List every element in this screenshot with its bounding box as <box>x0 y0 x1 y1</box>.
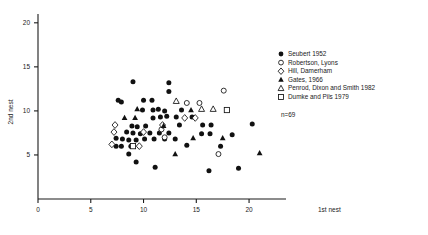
marker-filled-circle <box>173 137 178 142</box>
marker-filled-circle <box>208 131 213 136</box>
x-tick-label: 10 <box>140 206 148 213</box>
marker-filled-circle <box>218 144 223 149</box>
y-tick-label: 5 <box>26 151 30 158</box>
marker-filled-triangle <box>134 106 140 111</box>
y-axis-label: 2nd nest <box>7 99 14 124</box>
legend-item-label: Gates, 1966 <box>288 76 323 83</box>
marker-filled-triangle <box>172 151 178 156</box>
chart-container: 05101520 5101520 1st nest 2nd nest Seube… <box>0 0 428 235</box>
marker-open-triangle <box>173 98 179 104</box>
marker-open-diamond <box>136 143 142 150</box>
marker-filled-circle <box>152 137 157 142</box>
marker-filled-circle <box>142 137 147 142</box>
marker-filled-circle <box>147 130 152 135</box>
legend-item-0[interactable]: Seubert 1952 <box>279 50 327 57</box>
marker-filled-triangle <box>132 115 138 120</box>
legend-item-label: Dumke and Pils 1979 <box>288 93 349 100</box>
marker-filled-circle <box>153 165 158 170</box>
marker-filled-circle <box>166 89 171 94</box>
marker-filled-circle <box>230 132 235 137</box>
marker-open-circle <box>197 100 202 105</box>
marker-filled-circle <box>236 166 241 171</box>
marker-open-triangle <box>199 106 205 112</box>
legend-item-1[interactable]: Robertson, Lyons <box>279 59 338 67</box>
marker-filled-triangle <box>122 115 128 120</box>
series-0 <box>114 79 255 173</box>
marker-filled-circle <box>206 168 211 173</box>
marker-open-circle <box>184 100 189 105</box>
legend-item-label: Penrod, Dixon and Smith 1982 <box>288 84 375 91</box>
marker-open-circle <box>216 152 221 157</box>
marker-filled-circle <box>151 115 156 120</box>
marker-filled-circle <box>119 144 124 149</box>
marker-filled-triangle <box>190 135 196 140</box>
series-1 <box>159 88 226 156</box>
legend-item-label: Robertson, Lyons <box>288 59 338 67</box>
marker-filled-circle <box>209 123 214 128</box>
marker-filled-circle <box>166 130 171 135</box>
marker-filled-triangle <box>257 150 263 155</box>
marker-filled-circle <box>134 137 139 142</box>
marker-filled-circle <box>134 160 139 165</box>
sample-size-note: n=69 <box>281 111 296 118</box>
marker-filled-triangle <box>220 135 226 140</box>
legend-item-4[interactable]: Penrod, Dixon and Smith 1982 <box>278 84 375 91</box>
marker-open-diamond <box>111 129 117 136</box>
marker-open-square <box>224 107 229 112</box>
legend-item-label: Hill, Damerham <box>288 67 332 74</box>
legend: Seubert 1952Robertson, LyonsHill, Damerh… <box>278 50 375 118</box>
marker-filled-circle <box>158 115 163 120</box>
marker-filled-circle <box>140 108 145 113</box>
marker-open-triangle <box>210 106 216 112</box>
marker-filled-circle <box>124 130 129 135</box>
marker-open-square <box>130 144 135 149</box>
y-tick-label: 10 <box>23 107 31 114</box>
x-tick-label: 20 <box>245 206 253 213</box>
marker-filled-circle <box>166 80 171 85</box>
marker-open-circle <box>279 60 284 65</box>
marker-open-triangle <box>278 85 284 90</box>
marker-filled-circle <box>114 136 119 141</box>
marker-filled-circle <box>120 137 125 142</box>
marker-filled-circle <box>143 123 148 128</box>
marker-filled-circle <box>129 123 134 128</box>
x-axis-label: 1st nest <box>318 206 341 213</box>
axes-group: 05101520 5101520 <box>23 14 286 213</box>
marker-filled-circle <box>162 108 167 113</box>
marker-filled-circle <box>164 114 169 119</box>
legend-item-label: Seubert 1952 <box>288 50 327 57</box>
marker-filled-circle <box>250 122 255 127</box>
marker-filled-circle <box>184 143 189 148</box>
marker-filled-circle <box>126 152 131 157</box>
marker-filled-circle <box>179 108 184 113</box>
marker-filled-circle <box>149 98 154 103</box>
marker-filled-circle <box>135 124 140 129</box>
marker-open-circle <box>221 88 226 93</box>
marker-open-diamond <box>278 68 284 74</box>
marker-filled-circle <box>174 115 179 120</box>
marker-filled-circle <box>130 79 135 84</box>
marker-filled-circle <box>130 130 135 135</box>
x-tick-label: 15 <box>193 206 201 213</box>
marker-filled-circle <box>151 108 156 113</box>
marker-filled-circle <box>279 52 284 57</box>
marker-open-circle <box>162 135 167 140</box>
marker-filled-circle <box>200 123 205 128</box>
marker-filled-circle <box>119 100 124 105</box>
marker-filled-circle <box>177 123 182 128</box>
marker-open-diamond <box>182 115 188 122</box>
x-axis-ticks: 05101520 <box>36 199 253 213</box>
legend-item-5[interactable]: Dumke and Pils 1979 <box>278 93 349 100</box>
y-tick-label: 15 <box>23 63 31 70</box>
legend-item-2[interactable]: Hill, Damerham <box>278 67 332 74</box>
marker-filled-circle <box>199 131 204 136</box>
scatter-plot: 05101520 5101520 1st nest 2nd nest Seube… <box>0 0 428 235</box>
marker-filled-triangle <box>188 107 194 112</box>
y-tick-label: 20 <box>23 19 31 26</box>
y-axis-ticks: 5101520 <box>23 19 38 158</box>
marker-filled-circle <box>156 107 161 112</box>
x-tick-label: 0 <box>36 206 40 213</box>
data-points-layer <box>109 79 263 173</box>
marker-filled-circle <box>141 98 146 103</box>
legend-item-3[interactable]: Gates, 1966 <box>278 76 323 83</box>
